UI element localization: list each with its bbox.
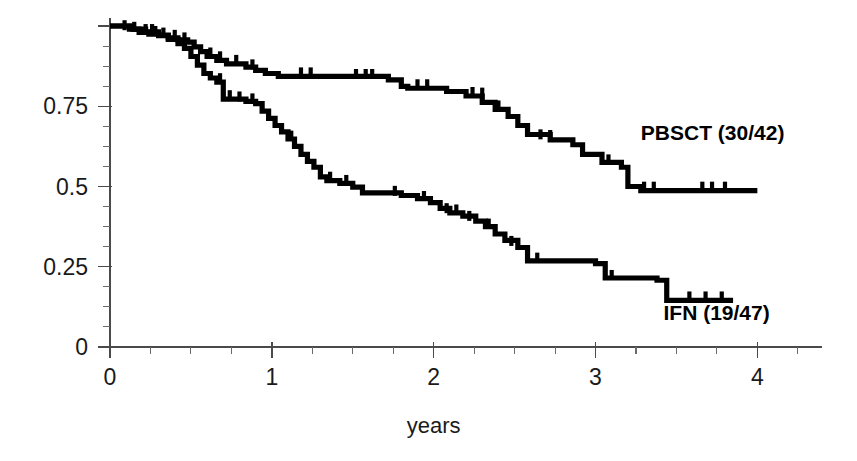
y-axis-tick-label: 0.75 xyxy=(43,93,88,119)
km-curve-ifn xyxy=(110,26,733,300)
x-axis-tick-label: 3 xyxy=(589,364,602,390)
x-axis-tick-label: 2 xyxy=(427,364,440,390)
x-axis-tick-label: 4 xyxy=(751,364,764,390)
x-axis-title: years xyxy=(407,413,461,438)
x-axis-tick-label: 0 xyxy=(104,364,117,390)
km-curve-pbsct xyxy=(110,26,757,191)
curves-layer xyxy=(110,20,757,301)
series-label-ifn: IFN (19/47) xyxy=(663,301,769,324)
series-label-pbsct: PBSCT (30/42) xyxy=(641,121,785,144)
labels-layer: 0123400.250.50.75PBSCT (30/42)IFN (19/47… xyxy=(43,93,784,438)
y-axis-tick-label: 0 xyxy=(75,334,88,360)
x-axis-tick-label: 1 xyxy=(265,364,278,390)
km-plot-svg: 0123400.250.50.75PBSCT (30/42)IFN (19/47… xyxy=(0,0,857,461)
y-axis-tick-label: 0.5 xyxy=(56,174,88,200)
kaplan-meier-figure: 0123400.250.50.75PBSCT (30/42)IFN (19/47… xyxy=(0,0,857,461)
y-axis-tick-label: 0.25 xyxy=(43,254,88,280)
